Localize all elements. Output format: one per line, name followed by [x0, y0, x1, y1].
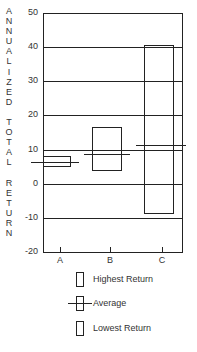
legend-label-highest: Highest Return: [93, 274, 153, 284]
y-tick-label: 10: [14, 144, 38, 154]
y-tick-label: -20: [14, 246, 38, 256]
x-tick: [162, 247, 163, 252]
lowest-return-symbol-icon: [76, 321, 84, 336]
y-axis-label-letter: E: [3, 188, 15, 198]
highest-return-symbol-icon: [76, 272, 84, 287]
y-tick-label: 40: [14, 41, 38, 51]
y-axis-label-letter: L: [3, 56, 15, 66]
y-tick-label: 50: [14, 7, 38, 17]
x-tick-label: C: [155, 255, 169, 265]
y-axis-label-letter: D: [3, 97, 15, 107]
y-tick-label: 0: [14, 178, 38, 188]
average-line-a: [31, 162, 79, 163]
y-axis-label-letter: N: [3, 26, 15, 36]
y-axis-label-letter: T: [3, 198, 15, 208]
y-tick-label: -10: [14, 212, 38, 222]
legend-label-lowest: Lowest Return: [93, 323, 151, 333]
average-line-b: [84, 154, 130, 155]
y-axis-label-letter: N: [3, 16, 15, 26]
average-line-icon: [68, 303, 92, 304]
x-tick-label: A: [53, 255, 67, 265]
range-box-c: [144, 45, 174, 214]
y-axis-label-letter: N: [3, 228, 15, 238]
x-tick: [110, 247, 111, 252]
y-tick-label: 30: [14, 75, 38, 85]
y-axis-label-letter: L: [3, 157, 15, 167]
y-axis-label-letter: E: [3, 87, 15, 97]
y-axis-label-letter: O: [3, 127, 15, 137]
y-tick-label: 20: [14, 109, 38, 119]
gridline: [43, 218, 183, 219]
y-axis-label-letter: [3, 168, 15, 178]
average-line-c: [136, 145, 186, 146]
x-tick-label: B: [103, 255, 117, 265]
legend-label-average: Average: [93, 298, 126, 308]
range-box-b: [92, 127, 122, 170]
x-tick: [60, 247, 61, 252]
